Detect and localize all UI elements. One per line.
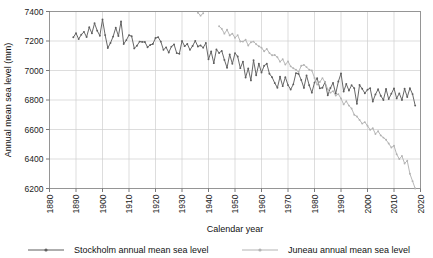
data-point [348, 90, 350, 92]
data-point [295, 69, 297, 71]
data-point [271, 54, 273, 56]
data-point [152, 43, 154, 45]
data-point [298, 71, 300, 73]
data-point [274, 82, 276, 84]
data-point [120, 21, 122, 23]
data-point [239, 67, 241, 69]
data-point [337, 81, 339, 83]
data-point [356, 116, 358, 118]
data-point [382, 99, 384, 101]
data-point [173, 43, 175, 45]
data-point [75, 32, 77, 34]
data-point [83, 31, 85, 33]
y-tick-label: 6200 [25, 184, 44, 194]
data-point [382, 137, 384, 139]
data-point [300, 65, 302, 67]
data-point [112, 36, 114, 38]
data-point [231, 33, 233, 35]
data-point [388, 98, 390, 100]
data-point [311, 92, 313, 94]
data-point [290, 65, 292, 67]
x-tick-label: 2000 [363, 194, 373, 213]
data-point [340, 73, 342, 75]
data-point [359, 84, 361, 86]
x-tick-label: 1900 [98, 194, 108, 213]
legend-label: Juneau annual mean sea level [288, 245, 410, 255]
data-point [279, 76, 281, 78]
data-point [202, 12, 204, 14]
data-point [72, 36, 74, 38]
data-point [375, 93, 377, 95]
data-point [300, 79, 302, 81]
data-point [292, 83, 294, 85]
data-point [292, 67, 294, 69]
data-point [131, 35, 133, 37]
y-tick-label: 7000 [25, 66, 44, 76]
data-point [385, 88, 387, 90]
data-point [340, 98, 342, 100]
data-point [107, 47, 109, 49]
data-point [329, 87, 331, 89]
data-point [115, 27, 117, 29]
data-point [258, 63, 260, 65]
data-point [157, 36, 159, 38]
data-point [314, 82, 316, 84]
data-point [125, 39, 127, 41]
series-line [73, 19, 415, 105]
data-point [303, 87, 305, 89]
data-point [319, 87, 321, 89]
data-point [269, 73, 271, 75]
data-point [208, 58, 210, 60]
data-point [258, 45, 260, 47]
data-point [253, 41, 255, 43]
data-point [186, 43, 188, 45]
legend-item-stockholm[interactable]: Stockholm annual mean sea level [28, 245, 209, 255]
sea-level-chart-figure: 6200640066006800700072007400188018901900… [0, 0, 433, 258]
data-point [271, 76, 273, 78]
data-point [361, 123, 363, 125]
x-tick-label: 1880 [45, 194, 55, 213]
x-tick-label: 1950 [230, 194, 240, 213]
data-point [245, 76, 247, 78]
data-point [287, 84, 289, 86]
data-point [398, 92, 400, 94]
data-point [239, 40, 241, 42]
data-point [88, 26, 90, 28]
legend-item-juneau[interactable]: Juneau annual mean sea level [242, 245, 410, 255]
data-point [332, 82, 334, 84]
data-point [412, 93, 414, 95]
x-tick-label: 1980 [310, 194, 320, 213]
data-point [229, 34, 231, 36]
data-point [414, 105, 416, 107]
y-tick-label: 7200 [25, 36, 44, 46]
data-point [110, 42, 112, 44]
data-point [99, 35, 101, 37]
data-point [322, 77, 324, 79]
data-point [337, 93, 339, 95]
legend-marker-dot [258, 248, 261, 251]
data-point [377, 88, 379, 90]
data-point [327, 94, 329, 96]
data-point [329, 92, 331, 94]
x-tick-label: 1890 [71, 194, 81, 213]
data-point [218, 52, 220, 54]
data-point [245, 39, 247, 41]
data-point [324, 81, 326, 83]
data-point [200, 15, 202, 17]
data-point [250, 41, 252, 43]
data-point [284, 76, 286, 78]
data-point [266, 48, 268, 50]
data-point [117, 35, 119, 37]
data-point [290, 89, 292, 91]
data-point [282, 58, 284, 60]
data-point [343, 103, 345, 105]
data-point [351, 84, 353, 86]
data-point [192, 45, 194, 47]
data-point [367, 125, 369, 127]
data-point [316, 77, 318, 79]
data-point [94, 22, 96, 24]
data-point [197, 46, 199, 48]
data-point [359, 119, 361, 121]
y-tick-label: 6800 [25, 95, 44, 105]
data-point [308, 84, 310, 86]
